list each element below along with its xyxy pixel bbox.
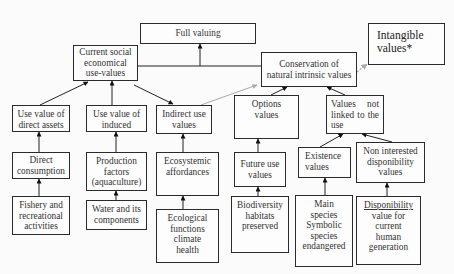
- node-intangible-values: Intangible values*: [368, 23, 445, 65]
- edge-current-to-indirect: [134, 85, 173, 104]
- edge-existence-to-notlinked: [320, 134, 343, 147]
- value-diagram: Full valuing Intangible values* Current …: [0, 0, 454, 274]
- node-indirect-use-label: Indirect use values: [162, 109, 206, 130]
- node-ecosystemic-label: Ecosystemic affordances: [164, 156, 211, 177]
- node-existence-values: Existence values: [298, 147, 351, 178]
- node-fishery-recreational: Fishery and recreational activities: [12, 196, 70, 235]
- node-current-social-use-values: Current social economical use-values: [73, 45, 138, 81]
- node-use-value-direct-assets: Use value of direct assets: [12, 105, 70, 132]
- node-non-interested-disponibility: Non interested disponibility values: [356, 142, 425, 183]
- node-biodiversity-label: Biodiversity habitats preserved: [237, 200, 283, 232]
- node-biodiversity-habitats: Biodiversity habitats preserved: [231, 196, 289, 253]
- node-options-values-label: Options values: [252, 99, 281, 120]
- node-conservation-intrinsic-values: Conservation of natural intrinsic values: [261, 52, 357, 87]
- node-disponibility-value: Disponibility value for current human ge…: [356, 196, 421, 265]
- node-conservation-label: Conservation of natural intrinsic values: [267, 59, 352, 80]
- edge-options-to-conservation: [271, 87, 287, 95]
- node-future-use-label: Future use values: [241, 159, 280, 180]
- node-use-value-induced: Use value of induced: [86, 105, 147, 132]
- node-options-values: Options values: [234, 95, 299, 139]
- node-disponibility-label: Disponibility value for current human ge…: [364, 200, 413, 253]
- node-indirect-use-values: Indirect use values: [156, 105, 212, 134]
- edge-noninterested-to-notlinked: [362, 134, 392, 142]
- node-main-species: Main species Symbolic species endangered: [295, 195, 353, 267]
- node-full-valuing-label: Full valuing: [175, 28, 220, 39]
- node-current-social-label: Current social economical use-values: [79, 47, 131, 79]
- node-non-interested-label: Non interested disponibility values: [363, 146, 417, 178]
- node-intangible-values-label: Intangible values*: [377, 29, 424, 55]
- edge-conservation-to-intangible: [357, 64, 367, 72]
- node-existence-label: Existence values: [305, 151, 341, 172]
- edge-notlinked-to-conservation: [327, 87, 345, 95]
- node-ecological-functions: Ecological functions climate health: [156, 209, 219, 263]
- node-use-value-direct-label: Use value of direct assets: [18, 109, 65, 130]
- edge-use-direct-to-current: [40, 82, 88, 105]
- node-future-use-values: Future use values: [234, 152, 286, 187]
- node-production-factors-label: Production factors (aquaculture): [92, 156, 142, 188]
- node-ecological-label: Ecological functions climate health: [168, 213, 208, 255]
- node-water-components: Water and its components: [86, 200, 147, 230]
- node-values-not-linked-label: Values not linked to the use: [327, 99, 383, 131]
- node-values-not-linked: Values not linked to the use: [326, 95, 384, 134]
- node-direct-consumption: Direct consumption: [12, 152, 70, 179]
- node-production-factors: Production factors (aquaculture): [86, 152, 147, 191]
- node-use-value-induced-label: Use value of induced: [93, 109, 140, 130]
- node-full-valuing: Full valuing: [140, 23, 256, 44]
- node-main-species-label: Main species Symbolic species endangered: [303, 199, 346, 252]
- node-ecosystemic-affordances: Ecosystemic affordances: [156, 152, 219, 196]
- node-direct-consumption-label: Direct consumption: [17, 155, 65, 176]
- node-fishery-label: Fishery and recreational activities: [19, 200, 63, 232]
- node-water-label: Water and its components: [92, 204, 141, 225]
